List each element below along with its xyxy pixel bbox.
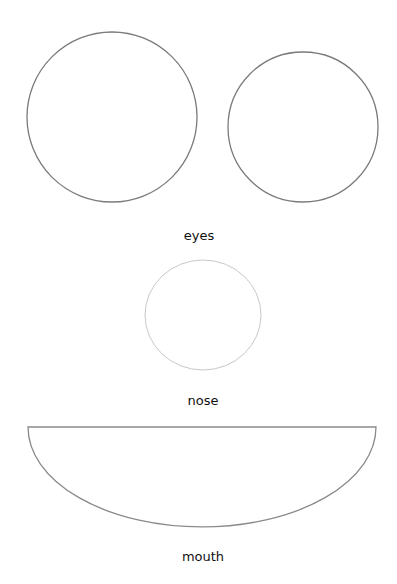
face-diagram	[0, 0, 397, 584]
nose-circle	[145, 260, 261, 370]
eyes-label: eyes	[139, 228, 259, 243]
nose-label: nose	[143, 393, 263, 408]
left-eye-circle	[27, 32, 197, 202]
right-eye-circle	[228, 52, 378, 202]
mouth-label: mouth	[143, 549, 263, 564]
mouth-half-ellipse	[28, 427, 376, 527]
